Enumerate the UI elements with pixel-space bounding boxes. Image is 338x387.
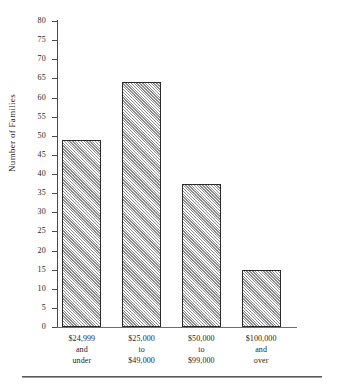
x-axis-category-label-line: to xyxy=(108,344,176,355)
x-axis-category-label-line: and xyxy=(48,344,116,355)
bar-chart-figure: Number of Families 807570656055504540353… xyxy=(0,0,338,387)
y-axis-tick-label: 15 xyxy=(38,266,46,274)
y-axis-tick xyxy=(52,327,57,328)
bar xyxy=(62,140,101,327)
footer-divider xyxy=(22,376,322,378)
x-axis-category-label-line: $24,999 xyxy=(48,333,116,344)
y-axis-tick-label: 25 xyxy=(38,227,46,235)
x-axis-category-label: $25,000to$49,000 xyxy=(108,333,176,366)
y-axis-tick-label: 30 xyxy=(38,208,46,216)
x-axis-category-label: $100,000andover xyxy=(227,333,295,366)
x-axis-category-label-line: over xyxy=(227,355,295,366)
y-axis-tick-label: 20 xyxy=(38,247,46,255)
y-axis-tick-label: 65 xyxy=(38,74,46,82)
x-axis-category-label-line: $25,000 xyxy=(108,333,176,344)
y-axis-tick-label: 75 xyxy=(38,36,46,44)
y-axis-tick-label: 55 xyxy=(38,113,46,121)
bar xyxy=(122,82,161,327)
x-axis-category-label-line: and xyxy=(227,344,295,355)
x-axis-category-label-line: $99,000 xyxy=(167,355,235,366)
y-axis-tick-label: 50 xyxy=(38,132,46,140)
y-axis-title: Number of Families xyxy=(7,43,17,223)
plot-area xyxy=(57,21,296,327)
x-axis-category-label-line: $49,000 xyxy=(108,355,176,366)
y-axis-tick-label: 40 xyxy=(38,170,46,178)
x-axis-category-label-line: under xyxy=(48,355,116,366)
bar xyxy=(242,270,281,327)
y-axis-tick-label: 60 xyxy=(38,94,46,102)
y-axis-tick-label: 0 xyxy=(42,323,46,331)
y-axis-tick-label: 5 xyxy=(42,304,46,312)
y-axis-tick-label: 10 xyxy=(38,285,46,293)
y-axis-tick-label: 70 xyxy=(38,55,46,63)
x-axis-category-label-line: $50,000 xyxy=(167,333,235,344)
x-axis-category-label-line: to xyxy=(167,344,235,355)
y-axis-tick-label: 80 xyxy=(38,17,46,25)
x-axis-category-label: $24,999andunder xyxy=(48,333,116,366)
y-axis-tick-label: 35 xyxy=(38,189,46,197)
x-axis-line xyxy=(57,327,297,328)
y-axis-tick-label: 45 xyxy=(38,151,46,159)
bar xyxy=(182,184,221,327)
x-axis-category-label-line: $100,000 xyxy=(227,333,295,344)
x-axis-category-label: $50,000to$99,000 xyxy=(167,333,235,366)
